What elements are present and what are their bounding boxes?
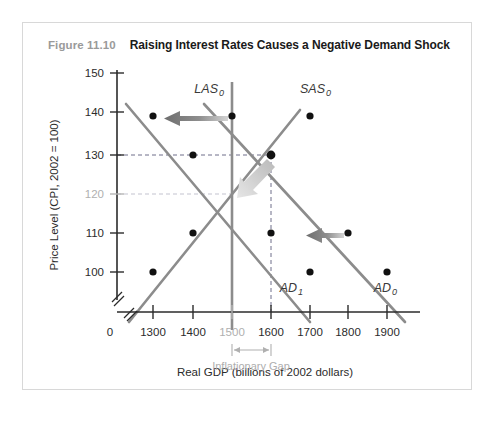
label-sas0-text: SAS <box>300 82 326 96</box>
xtick-label-1300: 1300 <box>140 326 166 338</box>
label-las0-subscript: 0 <box>219 88 224 98</box>
label-ad0: AD 0 <box>373 281 397 297</box>
ytick-label-150: 150 <box>85 67 104 79</box>
inflationary-gap-bracket <box>232 344 271 356</box>
marker-ad0-1800-110 <box>344 229 351 236</box>
xtick-label-1400: 1400 <box>180 326 206 338</box>
ytick-label-120: 120 <box>85 188 104 200</box>
xtick-label-1700: 1700 <box>297 326 323 338</box>
marker-ad0-1900-100 <box>383 268 390 275</box>
label-sas0: SAS 0 <box>300 82 331 98</box>
label-ad1: AD 1 <box>279 281 303 297</box>
xtick-label-1500: 1500 <box>219 326 245 338</box>
label-ad0-text: AD <box>373 281 391 295</box>
marker-ad1-1400-130 <box>189 151 196 158</box>
arrow-ad-shift-upper <box>164 111 228 126</box>
label-sas0-subscript: 0 <box>326 88 331 98</box>
marker-ad1-1600-110 <box>267 229 274 236</box>
marker-ad1-1300-140 <box>149 112 156 119</box>
marker-ad1-1700-100 <box>306 268 313 275</box>
label-las0-text: LAS <box>194 82 218 96</box>
label-ad0-subscript: 0 <box>392 287 397 297</box>
curve-sas0 <box>129 110 300 322</box>
label-ad1-subscript: 1 <box>298 287 303 297</box>
ytick-label-140: 140 <box>85 106 104 118</box>
ytick-label-100: 100 <box>85 266 104 278</box>
xtick-label-1600: 1600 <box>258 326 284 338</box>
arrow-ad-shift-lower <box>306 228 344 243</box>
chart-svg: 150 140 130 120 110 100 Price Level (CPI… <box>0 0 495 426</box>
marker-sas0-1300-100 <box>149 268 156 275</box>
marker-sas0-1600-130 <box>267 151 276 160</box>
xtick-label-0: 0 <box>107 326 113 338</box>
y-axis-title: Price Level (CPI, 2002 = 100) <box>48 119 60 270</box>
marker-ad0-1500-140 <box>228 112 235 119</box>
label-ad1-text: AD <box>279 281 297 295</box>
ytick-label-110: 110 <box>86 227 104 239</box>
xtick-label-1800: 1800 <box>335 326 361 338</box>
marker-sas0-1400-110 <box>189 229 196 236</box>
marker-sas0-1700-140 <box>306 112 313 119</box>
ytick-label-130: 130 <box>85 149 104 161</box>
figure-root: Figure 11.10 Raising Interest Rates Caus… <box>0 0 495 426</box>
inflationary-gap-label: Inflationary Gap <box>212 360 290 372</box>
label-las0: LAS 0 <box>194 82 224 98</box>
y-axis: 150 140 130 120 110 100 Price Level (CPI… <box>48 67 124 300</box>
xtick-label-1900: 1900 <box>374 326 400 338</box>
